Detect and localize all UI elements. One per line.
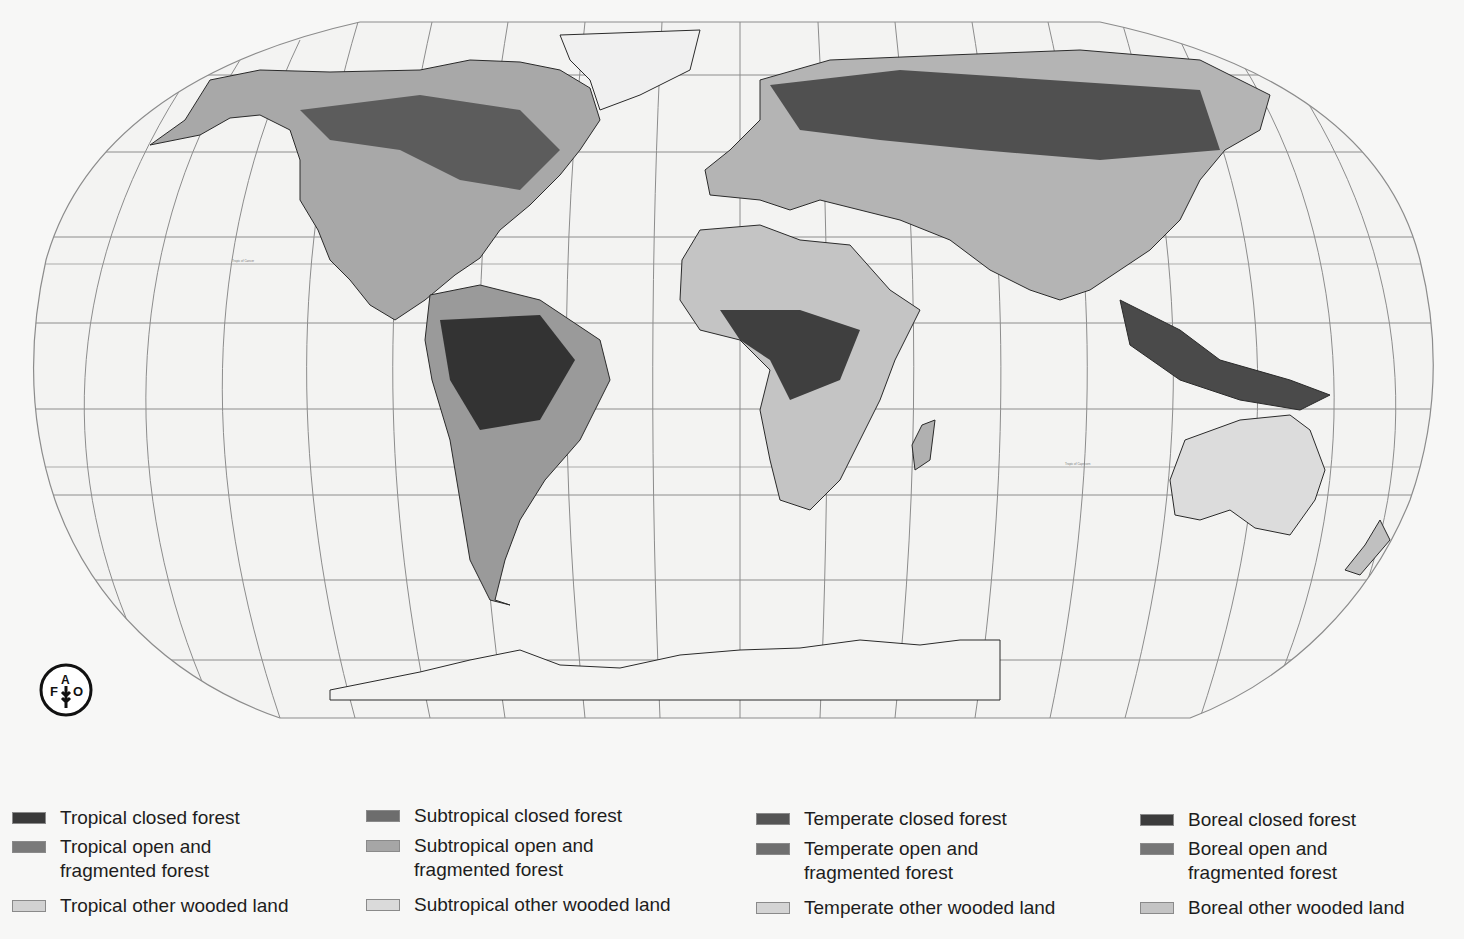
legend-label: Subtropical open and [414,834,594,858]
legend-label: Temperate closed forest [804,807,1007,831]
swatch-icon [12,841,46,853]
legend-label: Tropical closed forest [60,806,240,830]
svg-text:F: F [50,684,58,699]
swatch-icon [12,812,46,824]
world-map: Tropic of Cancer Tropic of Capricorn F A… [0,0,1464,740]
tropic-of-capricorn-label: Tropic of Capricorn [1065,462,1091,466]
legend-label-line2: fragmented forest [1188,861,1337,885]
legend-label: Boreal closed forest [1188,808,1356,832]
swatch-icon [1140,843,1174,855]
svg-text:A: A [61,673,70,687]
legend-label: Tropical other wooded land [60,894,289,918]
legend-label-line2: fragmented forest [60,859,209,883]
legend-label: Boreal other wooded land [1188,896,1405,920]
swatch-icon [366,899,400,911]
swatch-icon [1140,902,1174,914]
swatch-icon [756,813,790,825]
legend-label: Tropical open and [60,835,211,859]
legend-label: Temperate open and [804,837,978,861]
svg-text:O: O [73,684,83,699]
tropic-of-cancer-label: Tropic of Cancer [232,259,254,263]
fao-logo-icon: F A O [38,662,94,718]
legend-label-line2: fragmented forest [414,858,563,882]
swatch-icon [366,840,400,852]
map-legend: Tropical closed forest Tropical open and… [0,800,1464,939]
swatch-icon [1140,814,1174,826]
swatch-icon [12,900,46,912]
swatch-icon [756,902,790,914]
legend-label-line2: fragmented forest [804,861,953,885]
swatch-icon [756,843,790,855]
legend-label: Boreal open and [1188,837,1327,861]
legend-label: Temperate other wooded land [804,896,1055,920]
swatch-icon [366,810,400,822]
legend-label: Subtropical closed forest [414,804,622,828]
forest-zones-map: Tropic of Cancer Tropic of Capricorn [0,0,1464,740]
legend-label: Subtropical other wooded land [414,893,671,917]
